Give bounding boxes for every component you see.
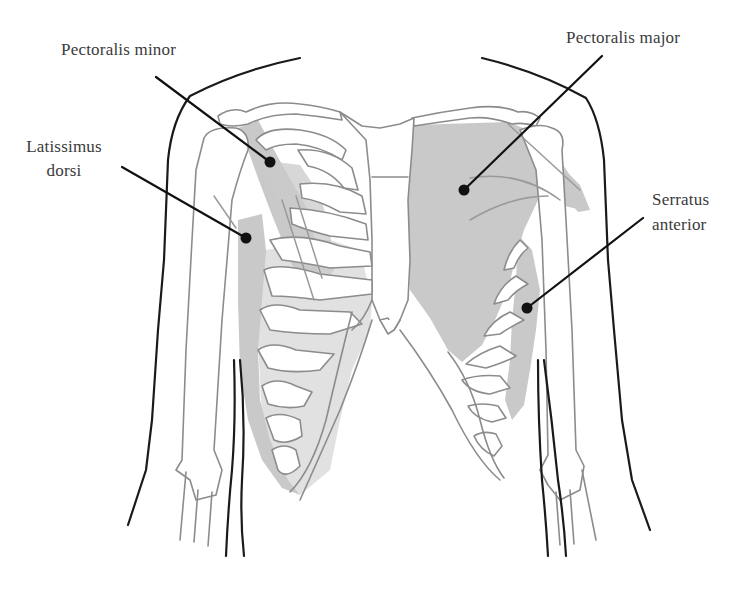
pectoralis-minor-marker	[265, 157, 276, 168]
latissimus-dorsi-marker	[241, 233, 252, 244]
left-inner-arm-outline	[240, 360, 244, 556]
label-pectoralis-major-text: Pectoralis major	[566, 28, 680, 47]
label-serratus-anterior-line1: Serratus	[652, 190, 709, 210]
label-latissimus-dorsi-line1: Latissimus	[22, 137, 106, 157]
serratus-anterior-marker	[522, 303, 533, 314]
left-radius	[180, 472, 186, 540]
label-pectoralis-minor: Pectoralis minor	[61, 40, 176, 60]
left-clavicle	[218, 103, 342, 126]
pectoralis-major-marker	[459, 185, 470, 196]
label-latissimus-dorsi-line2: dorsi	[22, 161, 106, 181]
right-forearm	[582, 470, 596, 540]
label-pectoralis-minor-text: Pectoralis minor	[61, 40, 176, 59]
left-forearm	[208, 492, 212, 546]
left-torso-outline	[226, 360, 235, 556]
left-humerus	[176, 128, 248, 500]
chest-anatomy-diagram	[0, 0, 752, 590]
right-ulna	[570, 490, 574, 544]
label-serratus-anterior: Serratus anterior	[652, 190, 709, 235]
label-serratus-anterior-line2: anterior	[652, 215, 709, 235]
label-pectoralis-major: Pectoralis major	[566, 28, 680, 48]
label-latissimus-dorsi: Latissimus dorsi	[22, 137, 106, 181]
xiphoid-process	[380, 320, 400, 334]
